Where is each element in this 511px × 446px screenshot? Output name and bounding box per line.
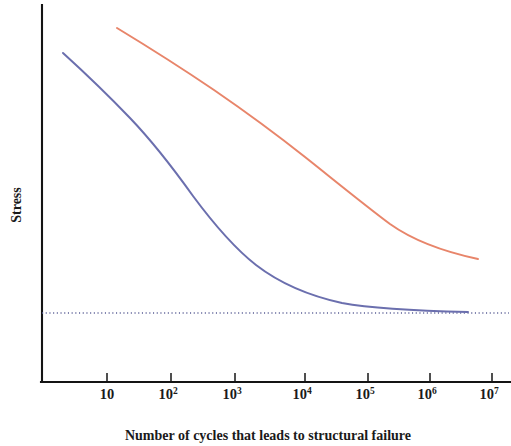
chart-canvas: 10 102 103 104 105 106 107 Stress Nu xyxy=(0,0,511,446)
x-tick-exponent-1e3: 3 xyxy=(237,386,242,396)
x-tick-exponent-1e4: 4 xyxy=(307,386,312,396)
x-tick-exponent-1e2: 2 xyxy=(173,386,178,396)
fatigue-curve-figure: 10 102 103 104 105 106 107 Stress Nu xyxy=(0,0,511,446)
x-tick-mantissa-1e1: 10 xyxy=(100,386,115,402)
x-tick-mantissa-1e3: 10 xyxy=(222,386,237,402)
x-tick-exponent-1e7: 7 xyxy=(494,386,499,396)
x-tick-mantissa-1e7: 10 xyxy=(479,386,494,402)
x-tick-exponent-1e5: 5 xyxy=(370,386,375,396)
x-axis-title: Number of cycles that leads to structura… xyxy=(125,428,411,443)
x-tick-exponent-1e6: 6 xyxy=(432,386,437,396)
x-tick-mantissa-1e5: 10 xyxy=(355,386,370,402)
x-tick-mantissa-1e2: 10 xyxy=(158,386,173,402)
y-axis-title: Stress xyxy=(9,187,24,223)
x-tick-label-1e1: 10 xyxy=(100,386,115,402)
x-tick-mantissa-1e6: 10 xyxy=(417,386,432,402)
x-tick-mantissa-1e4: 10 xyxy=(292,386,307,402)
